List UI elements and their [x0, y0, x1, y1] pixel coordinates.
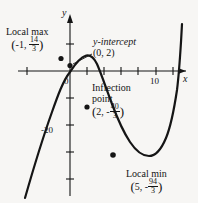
local-max-denominator: 3: [29, 44, 39, 53]
local-max-numerator: 14: [29, 36, 39, 44]
inflection-numerator: 40: [110, 103, 120, 111]
inflection-title-line1: Inflection: [92, 82, 131, 93]
inflection-fraction: 403: [110, 103, 120, 120]
point-local-max: [58, 56, 63, 61]
graph-figure: Local max (-1, 143) y-intercept (0, 2) I…: [0, 0, 198, 203]
local-min-numerator: 94: [148, 178, 158, 186]
local-max-coords: (-1, 143): [6, 37, 48, 54]
point-inflection: [84, 104, 89, 109]
y-axis-arrowhead: [67, 14, 73, 23]
inflection-coords: (2, -403): [92, 104, 131, 121]
local-min-title: Local min: [126, 168, 167, 179]
inflection-annotation: Inflection point (2, -403): [92, 82, 131, 121]
local-max-x: -1: [16, 39, 24, 50]
y-intercept-title: y-intercept: [93, 36, 136, 47]
x-tick-label-0: 0: [64, 76, 69, 86]
x-tick-label-10: 10: [150, 76, 159, 86]
x-axis-label: x: [183, 73, 187, 84]
local-min-denominator: 3: [148, 186, 158, 195]
point-local-min: [110, 152, 116, 158]
local-min-fraction: 943: [148, 178, 158, 195]
y-axis-label: y: [62, 7, 66, 18]
inflection-denominator: 3: [110, 111, 120, 120]
point-y-intercept: [67, 63, 72, 68]
local-min-annotation: Local min (5, -943): [126, 168, 167, 196]
y-tick-label-neg20: -20: [41, 125, 53, 135]
leader-line-y-intercept: [73, 54, 92, 64]
local-max-fraction: 143: [29, 36, 39, 53]
local-max-title: Local max: [6, 26, 48, 37]
local-min-coords: (5, -943): [126, 179, 167, 196]
y-intercept-coords: (0, 2): [93, 47, 136, 58]
y-intercept-annotation: y-intercept (0, 2): [93, 36, 136, 58]
local-max-annotation: Local max (-1, 143): [6, 26, 48, 54]
